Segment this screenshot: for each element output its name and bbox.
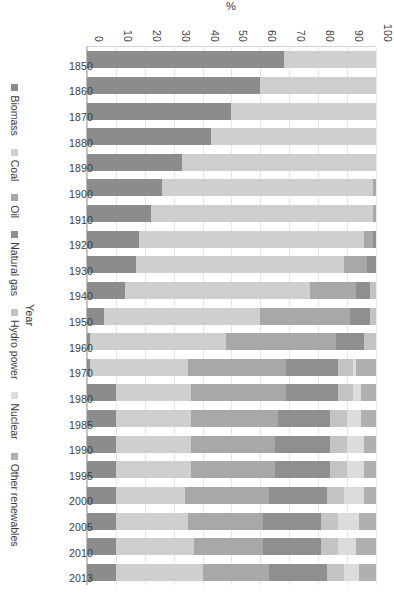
- bar-segment-coal[interactable]: [116, 384, 191, 401]
- bar-column[interactable]: 1860: [87, 73, 376, 99]
- stacked-bar[interactable]: [87, 128, 376, 145]
- bar-segment-other-renewables[interactable]: [356, 359, 376, 376]
- bar-segment-oil[interactable]: [260, 308, 350, 325]
- stacked-bar[interactable]: [87, 256, 376, 273]
- bar-segment-hydro-power[interactable]: [338, 359, 352, 376]
- legend-item-nuclear[interactable]: Nuclear: [9, 392, 21, 439]
- bar-segment-natural-gas[interactable]: [336, 333, 365, 350]
- bar-segment-oil[interactable]: [185, 487, 269, 504]
- bar-segment-coal[interactable]: [151, 205, 374, 222]
- bar-column[interactable]: 1880: [87, 124, 376, 150]
- legend-item-natural-gas[interactable]: Natural gas: [9, 231, 21, 296]
- bar-segment-biomass[interactable]: [87, 256, 136, 273]
- bar-segment-nuclear[interactable]: [338, 538, 355, 555]
- bar-column[interactable]: 2005: [87, 508, 376, 534]
- bar-segment-coal[interactable]: [139, 231, 364, 248]
- bar-segment-natural-gas[interactable]: [269, 564, 327, 581]
- bar-segment-coal[interactable]: [90, 359, 188, 376]
- bar-segment-coal[interactable]: [116, 436, 191, 453]
- bar-column[interactable]: 2013: [87, 560, 376, 586]
- stacked-bar[interactable]: [87, 308, 376, 325]
- bar-segment-hydro-power[interactable]: [330, 436, 347, 453]
- bar-column[interactable]: 1850: [87, 47, 376, 73]
- stacked-bar[interactable]: [87, 231, 376, 248]
- stacked-bar[interactable]: [87, 205, 376, 222]
- stacked-bar[interactable]: [87, 564, 376, 581]
- stacked-bar[interactable]: [87, 359, 376, 376]
- bar-segment-coal[interactable]: [232, 103, 377, 120]
- bar-segment-oil[interactable]: [310, 282, 356, 299]
- bar-segment-natural-gas[interactable]: [263, 538, 321, 555]
- bar-segment-coal[interactable]: [116, 538, 194, 555]
- bar-segment-coal[interactable]: [116, 461, 191, 478]
- stacked-bar[interactable]: [87, 77, 376, 94]
- bar-segment-coal[interactable]: [182, 154, 376, 171]
- bar-segment-oil[interactable]: [191, 436, 275, 453]
- bar-segment-coal[interactable]: [90, 333, 226, 350]
- bar-column[interactable]: 1910: [87, 201, 376, 227]
- bar-segment-nuclear[interactable]: [347, 436, 364, 453]
- stacked-bar[interactable]: [87, 103, 376, 120]
- bar-segment-biomass[interactable]: [87, 103, 232, 120]
- bar-column[interactable]: 1930: [87, 252, 376, 278]
- bar-segment-hydro-power[interactable]: [330, 461, 347, 478]
- stacked-bar[interactable]: [87, 154, 376, 171]
- bar-segment-biomass[interactable]: [87, 154, 182, 171]
- bar-segment-oil[interactable]: [373, 179, 376, 196]
- bar-segment-oil[interactable]: [364, 231, 373, 248]
- bar-segment-hydro-power[interactable]: [321, 538, 338, 555]
- bar-segment-nuclear[interactable]: [338, 513, 358, 530]
- bar-column[interactable]: 1985: [87, 406, 376, 432]
- bar-column[interactable]: 1940: [87, 278, 376, 304]
- bar-column[interactable]: 1890: [87, 150, 376, 176]
- legend-item-coal[interactable]: Coal: [9, 149, 21, 182]
- bar-column[interactable]: 1950: [87, 303, 376, 329]
- stacked-bar[interactable]: [87, 333, 376, 350]
- bar-column[interactable]: 1995: [87, 457, 376, 483]
- bar-segment-nuclear[interactable]: [353, 359, 356, 376]
- stacked-bar[interactable]: [87, 282, 376, 299]
- bar-segment-nuclear[interactable]: [347, 410, 361, 427]
- bar-segment-hydro-power[interactable]: [330, 410, 347, 427]
- bar-segment-nuclear[interactable]: [344, 487, 364, 504]
- bar-column[interactable]: 1900: [87, 175, 376, 201]
- bar-segment-nuclear[interactable]: [344, 564, 358, 581]
- bar-segment-oil[interactable]: [191, 384, 286, 401]
- bar-segment-biomass[interactable]: [87, 179, 162, 196]
- bar-column[interactable]: 2000: [87, 483, 376, 509]
- bar-column[interactable]: 1960: [87, 329, 376, 355]
- bar-column[interactable]: 1870: [87, 98, 376, 124]
- bar-segment-hydro-power[interactable]: [370, 282, 376, 299]
- bar-segment-natural-gas[interactable]: [350, 308, 370, 325]
- legend-item-hydro-power[interactable]: Hydro power: [9, 309, 21, 380]
- bar-segment-biomass[interactable]: [87, 51, 284, 68]
- bar-segment-coal[interactable]: [116, 487, 185, 504]
- bar-segment-oil[interactable]: [188, 359, 286, 376]
- bar-segment-coal[interactable]: [211, 128, 376, 145]
- bar-segment-other-renewables[interactable]: [364, 461, 376, 478]
- bar-segment-natural-gas[interactable]: [269, 487, 327, 504]
- bar-segment-biomass[interactable]: [87, 77, 260, 94]
- stacked-bar[interactable]: [87, 51, 376, 68]
- bar-segment-natural-gas[interactable]: [278, 410, 330, 427]
- bar-segment-other-renewables[interactable]: [361, 384, 375, 401]
- bar-segment-oil[interactable]: [226, 333, 336, 350]
- stacked-bar[interactable]: [87, 384, 376, 401]
- bar-segment-hydro-power[interactable]: [327, 487, 344, 504]
- legend-item-biomass[interactable]: Biomass: [9, 84, 21, 135]
- bar-segment-other-renewables[interactable]: [361, 410, 375, 427]
- bar-segment-biomass[interactable]: [87, 128, 211, 145]
- stacked-bar[interactable]: [87, 461, 376, 478]
- bar-segment-other-renewables[interactable]: [359, 564, 376, 581]
- bar-segment-biomass[interactable]: [87, 205, 151, 222]
- bar-segment-nuclear[interactable]: [347, 461, 364, 478]
- bar-segment-oil[interactable]: [373, 205, 376, 222]
- bar-segment-hydro-power[interactable]: [321, 513, 338, 530]
- bar-segment-oil[interactable]: [203, 564, 269, 581]
- stacked-bar[interactable]: [87, 410, 376, 427]
- bar-segment-coal[interactable]: [116, 564, 203, 581]
- bar-column[interactable]: 1980: [87, 380, 376, 406]
- stacked-bar[interactable]: [87, 179, 376, 196]
- bar-segment-coal[interactable]: [125, 282, 310, 299]
- bar-segment-coal[interactable]: [162, 179, 373, 196]
